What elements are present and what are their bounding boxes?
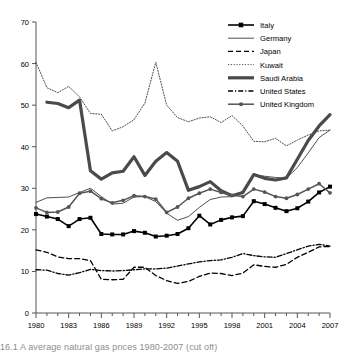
- figure-caption: 16.1 A average natural gas prices 1980-2…: [0, 344, 346, 354]
- series-marker: [121, 232, 125, 236]
- series-marker: [56, 217, 60, 221]
- y-axis-tick-label: 50: [21, 101, 29, 110]
- series-marker: [176, 205, 180, 209]
- legend-item-saudi-arabia: Saudi Arabia: [228, 74, 304, 83]
- series-marker: [252, 187, 256, 191]
- series-marker: [45, 210, 49, 214]
- legend-swatch-marker: [239, 102, 243, 106]
- series-marker: [328, 191, 332, 195]
- y-axis-tick-label: 60: [21, 60, 29, 69]
- series-marker: [78, 217, 82, 221]
- series-marker: [143, 195, 147, 199]
- series-marker: [219, 218, 223, 222]
- y-axis-tick-label: 10: [21, 267, 29, 276]
- series-marker: [263, 202, 267, 206]
- chart-legend: ItalyGermanyJapanKuwaitSaudi ArabiaUnite…: [228, 21, 314, 109]
- series-marker: [328, 185, 332, 189]
- series-marker: [252, 199, 256, 203]
- series-marker: [197, 191, 201, 195]
- series-line: [36, 244, 330, 275]
- y-axis-tick-label: 20: [21, 226, 29, 235]
- series-marker: [45, 215, 49, 219]
- series-marker: [187, 196, 191, 200]
- series-marker: [132, 229, 136, 233]
- legend-label: Kuwait: [260, 61, 284, 70]
- x-axis: 1980198319861989199219951998200120042007: [28, 313, 339, 330]
- series-line: [47, 100, 330, 196]
- series-marker: [285, 196, 289, 200]
- series-marker: [241, 195, 245, 199]
- series-marker: [88, 216, 92, 220]
- series-marker: [165, 234, 169, 238]
- series-marker: [110, 232, 114, 236]
- series-marker: [208, 187, 212, 191]
- figure-caption-text: 16.1 A average natural gas prices 1980-2…: [0, 344, 346, 352]
- legend-swatch-marker: [239, 23, 244, 28]
- y-axis-tick-label: 30: [21, 184, 29, 193]
- x-axis-tick-label: 1986: [93, 321, 110, 330]
- y-axis-tick-label: 0: [25, 309, 29, 318]
- series-marker: [34, 212, 38, 216]
- series-marker: [317, 182, 321, 186]
- legend-label: Saudi Arabia: [260, 74, 304, 83]
- series-marker: [110, 201, 114, 205]
- series-marker: [317, 190, 321, 194]
- series-marker: [295, 206, 299, 210]
- series-marker: [284, 209, 288, 213]
- legend-label: United Kingdom: [260, 100, 314, 109]
- series-marker: [230, 193, 234, 197]
- x-axis-tick-label: 1983: [60, 321, 77, 330]
- legend-item-united-kingdom: United Kingdom: [228, 100, 314, 109]
- series-marker: [121, 198, 125, 202]
- series-marker: [67, 224, 71, 228]
- legend-label: Japan: [260, 47, 281, 56]
- y-axis: 010203040506070: [21, 18, 36, 318]
- series-marker: [56, 210, 60, 214]
- series-marker: [274, 206, 278, 210]
- legend-label: United States: [260, 87, 306, 96]
- x-axis-tick-label: 1998: [224, 321, 241, 330]
- series-marker: [176, 232, 180, 236]
- series-marker: [219, 191, 223, 195]
- figure-container: 010203040506070 198019831986198919921995…: [0, 0, 346, 354]
- x-axis-tick-label: 1992: [158, 321, 175, 330]
- series-united-states: [36, 244, 330, 275]
- series-marker: [143, 231, 147, 235]
- series-marker: [78, 191, 82, 195]
- x-axis-tick-label: 1980: [28, 321, 45, 330]
- x-axis-tick-label: 2004: [289, 321, 306, 330]
- line-chart: 010203040506070 198019831986198919921995…: [0, 0, 346, 354]
- legend-item-germany: Germany: [228, 34, 291, 43]
- legend-label: Italy: [260, 21, 274, 30]
- x-axis-tick-label: 1989: [126, 321, 143, 330]
- series-marker: [274, 195, 278, 199]
- legend-item-united-states: United States: [228, 87, 306, 96]
- series-marker: [99, 232, 103, 236]
- series-marker: [67, 205, 71, 209]
- series-marker: [208, 222, 212, 226]
- legend-item-japan: Japan: [228, 47, 281, 56]
- legend-item-kuwait: Kuwait: [228, 61, 284, 70]
- series-marker: [165, 210, 169, 214]
- x-axis-tick-label: 1995: [191, 321, 208, 330]
- series-marker: [263, 190, 267, 194]
- series-marker: [186, 226, 190, 230]
- series-marker: [154, 235, 158, 239]
- legend-label: Germany: [260, 34, 291, 43]
- series-marker: [34, 206, 38, 210]
- y-axis-tick-label: 70: [21, 18, 29, 27]
- x-axis-tick-label: 2001: [256, 321, 273, 330]
- series-marker: [295, 193, 299, 197]
- series-marker: [197, 214, 201, 218]
- series-japan: [36, 246, 330, 283]
- y-axis-tick-label: 40: [21, 143, 29, 152]
- series-marker: [306, 187, 310, 191]
- series-marker: [154, 197, 158, 201]
- series-marker: [230, 215, 234, 219]
- series-line: [36, 246, 330, 283]
- series-marker: [132, 194, 136, 198]
- x-axis-tick-label: 2007: [322, 321, 339, 330]
- legend-item-italy: Italy: [228, 21, 274, 30]
- series-marker: [99, 197, 103, 201]
- series-marker: [89, 189, 93, 193]
